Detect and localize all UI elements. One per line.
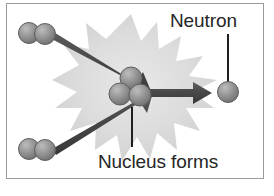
- nucleus-forms-label: Nucleus forms: [98, 152, 218, 171]
- fusion-diagram-figure: Neutron Nucleus forms: [0, 0, 274, 196]
- tritium-pair-bottom: [19, 139, 56, 161]
- deuterium-pair-top: [19, 23, 56, 45]
- emitted-neutron-particle: [218, 82, 239, 103]
- diagram-panel: Neutron Nucleus forms: [6, 3, 264, 179]
- neutron-label: Neutron: [170, 11, 237, 30]
